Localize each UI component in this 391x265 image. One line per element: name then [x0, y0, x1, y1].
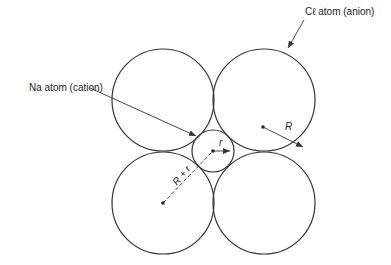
anion-label: Cℓ atom (anion) [305, 6, 374, 17]
ionic-packing-diagram: R r R + r Cℓ atom (anion) Na atom (catio… [0, 0, 391, 265]
anion-circle-top-right [213, 49, 315, 151]
cation-leader-line [90, 88, 196, 136]
anion-leader-line [288, 20, 304, 48]
radius-R-label: R [285, 121, 292, 132]
anion-circle-bottom-right [213, 152, 315, 254]
radius-r-label: r [219, 137, 223, 148]
radius-R-arrow [263, 127, 303, 147]
cation-label: Na atom (cation) [29, 82, 103, 93]
